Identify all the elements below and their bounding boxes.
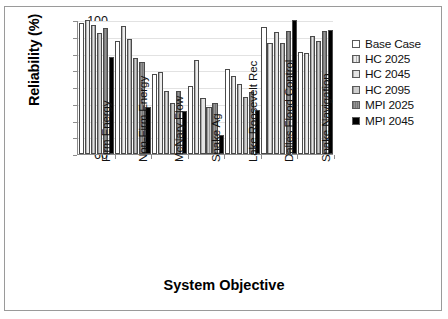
legend-swatch-icon — [352, 86, 360, 94]
legend-label: MPI 2045 — [365, 114, 414, 128]
legend-swatch-icon — [352, 55, 360, 63]
legend-swatch-icon — [352, 40, 360, 48]
x-category-label: Snake Ag — [210, 114, 222, 162]
legend-label: Base Case — [365, 37, 421, 51]
legend-swatch-icon — [352, 70, 360, 78]
x-tick-mark — [188, 155, 189, 159]
x-tick-mark — [115, 155, 116, 159]
bar[interactable] — [231, 76, 236, 154]
legend-item[interactable]: Base Case — [352, 36, 438, 51]
bar[interactable] — [225, 69, 230, 154]
bar[interactable] — [298, 52, 303, 154]
bar-chart-figure: Reliability (%) 6065707580859095100 Firm… — [0, 0, 448, 319]
x-tick-mark — [261, 155, 262, 159]
x-tick-mark — [224, 155, 225, 159]
x-category-label: Dalles Flood Control — [283, 60, 295, 162]
x-tick-mark — [334, 155, 335, 159]
legend-item[interactable]: HC 2095 — [352, 82, 438, 97]
bar[interactable] — [188, 86, 193, 154]
bar[interactable] — [121, 26, 126, 154]
bar[interactable] — [127, 39, 132, 154]
x-tick-mark — [297, 155, 298, 159]
x-axis-title: System Objective — [0, 277, 448, 293]
bar[interactable] — [261, 27, 266, 154]
x-category-label: Non-Firm Energy — [137, 76, 149, 162]
bar[interactable] — [79, 23, 84, 154]
legend-item[interactable]: HC 2045 — [352, 67, 438, 82]
x-category-label: Firm Energy — [100, 100, 112, 162]
legend-label: MPI 2025 — [365, 98, 414, 112]
x-tick-mark — [151, 155, 152, 159]
legend-label: HC 2095 — [365, 83, 410, 97]
bar[interactable] — [91, 25, 96, 154]
legend-label: HC 2025 — [365, 52, 410, 66]
legend-label: HC 2045 — [365, 67, 410, 81]
legend-item[interactable]: MPI 2025 — [352, 98, 438, 113]
bar[interactable] — [85, 20, 90, 154]
bar[interactable] — [194, 60, 199, 154]
bar[interactable] — [267, 43, 272, 154]
x-category-label: Snake Navigation — [320, 73, 332, 162]
y-tick-mark — [73, 155, 77, 156]
bar[interactable] — [164, 91, 169, 154]
legend-item[interactable]: MPI 2045 — [352, 113, 438, 128]
chart-legend: Base CaseHC 2025HC 2045HC 2095MPI 2025MP… — [352, 36, 438, 128]
bar[interactable] — [158, 72, 163, 154]
x-category-label: Lake Roosevelt Rec — [247, 61, 259, 162]
bar[interactable] — [310, 36, 315, 154]
legend-swatch-icon — [352, 101, 360, 109]
legend-item[interactable]: HC 2025 — [352, 51, 438, 66]
bar[interactable] — [237, 84, 242, 154]
bar[interactable] — [200, 98, 205, 154]
y-axis-title: Reliability (%) — [26, 0, 42, 130]
legend-swatch-icon — [352, 117, 360, 125]
bar[interactable] — [274, 32, 279, 154]
bar[interactable] — [115, 41, 120, 154]
x-category-label: McNary Flow — [173, 96, 185, 162]
bar[interactable] — [152, 74, 157, 154]
bar[interactable] — [304, 53, 309, 154]
